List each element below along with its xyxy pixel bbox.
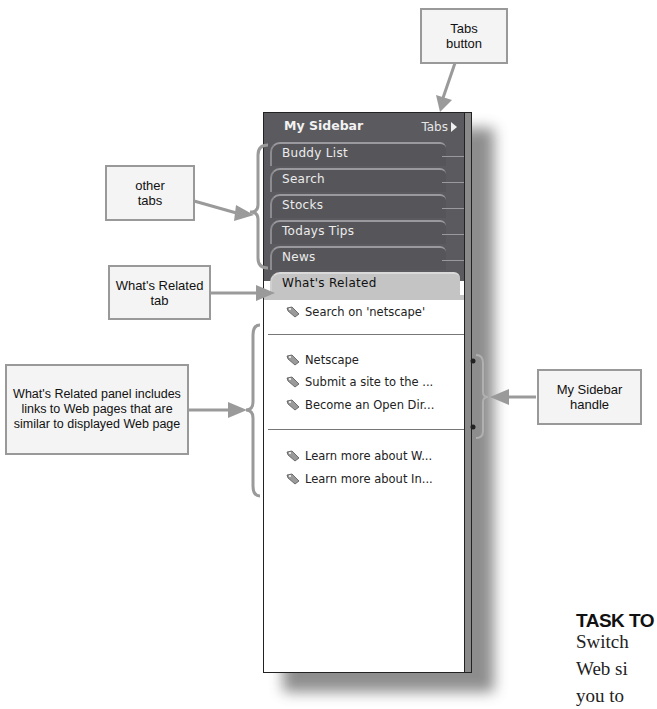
- callout-whats-related-tab: What's Related tab: [108, 265, 211, 320]
- arrowhead: [436, 95, 452, 112]
- callout-sidebar-handle: My Sidebar handle: [537, 369, 642, 425]
- arrow-line: [443, 63, 455, 98]
- callout-other-tabs: other tabs: [105, 165, 195, 221]
- callout-text: What's Related panel includes links to W…: [10, 387, 185, 432]
- arrowhead: [490, 389, 509, 405]
- callout-text: What's Related tab: [115, 278, 205, 308]
- task-line: Web si: [576, 655, 629, 682]
- callout-tabs-button: Tabs button: [420, 8, 508, 64]
- callout-text: other tabs: [125, 178, 175, 208]
- bracket: [250, 145, 268, 268]
- task-line: Switch: [576, 628, 629, 655]
- handle-dot: [471, 359, 476, 364]
- task-line: you to: [576, 682, 629, 709]
- arrowhead: [228, 402, 247, 418]
- sidebar-handle-grip[interactable]: [476, 355, 488, 438]
- callout-text: Tabs button: [434, 21, 494, 51]
- callout-whats-related-panel: What's Related panel includes links to W…: [5, 364, 189, 455]
- arrowhead: [256, 285, 275, 301]
- callout-text: My Sidebar handle: [550, 382, 630, 412]
- arrow-line: [194, 201, 240, 214]
- task-body: Switch Web si you to: [576, 628, 629, 709]
- bracket: [246, 325, 260, 496]
- handle-dot: [471, 425, 476, 430]
